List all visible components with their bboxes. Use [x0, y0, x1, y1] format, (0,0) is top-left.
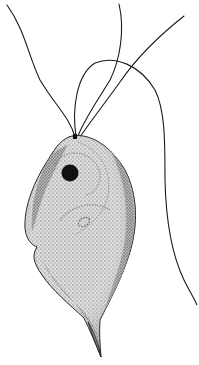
flagellum-right: [80, 16, 184, 137]
flagellum-left: [7, 5, 75, 137]
cell-body: [25, 134, 136, 357]
anterior-flagella: [7, 4, 184, 137]
flagellum-middle: [78, 4, 122, 136]
protozoan-illustration: [0, 0, 199, 365]
nucleus: [62, 165, 79, 182]
